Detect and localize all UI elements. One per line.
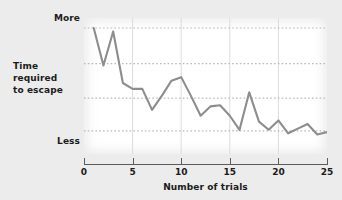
x-axis-tick xyxy=(278,158,279,165)
x-axis: 0510152025 xyxy=(84,158,327,168)
data-series-line xyxy=(94,28,327,134)
x-axis-tick xyxy=(327,158,328,165)
x-axis-tick-label: 5 xyxy=(121,167,145,177)
x-axis-tick xyxy=(84,158,85,165)
y-axis-tick-labels: More Less xyxy=(34,0,80,160)
x-axis-tick-label: 10 xyxy=(169,167,193,177)
x-axis-line xyxy=(84,164,327,165)
x-axis-label: Number of trials xyxy=(84,182,327,192)
x-axis-tick xyxy=(133,158,134,165)
x-axis-tick xyxy=(230,158,231,165)
plot-canvas xyxy=(84,18,327,154)
escape-time-line-chart: Time required to escape More Less 051015… xyxy=(0,0,342,200)
x-axis-tick-label: 15 xyxy=(218,167,242,177)
x-axis-tick-label: 20 xyxy=(266,167,290,177)
y-tick-label-less: Less xyxy=(36,136,80,146)
x-axis-tick-label: 0 xyxy=(72,167,96,177)
x-axis-tick xyxy=(181,158,182,165)
horizontal-gridlines xyxy=(84,28,327,131)
vertical-gridlines xyxy=(133,18,279,154)
x-axis-tick-label: 25 xyxy=(315,167,339,177)
y-tick-label-more: More xyxy=(36,13,80,23)
plot-area xyxy=(84,18,327,154)
